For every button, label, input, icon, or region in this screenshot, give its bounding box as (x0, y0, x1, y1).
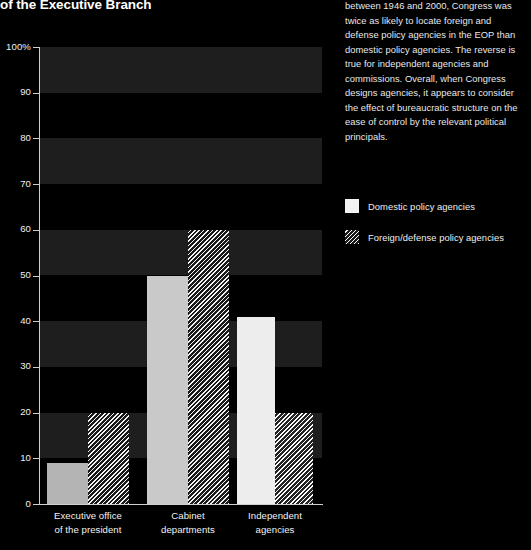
y-axis-tick-mark (33, 458, 39, 459)
bar-domestic-2 (147, 276, 188, 505)
y-axis-tick-mark (33, 138, 39, 139)
y-axis-tick-label: 10 (0, 452, 31, 463)
y-axis-tick-label: 30 (0, 360, 31, 371)
x-axis-label-line: Independent (215, 509, 335, 523)
chart-legend: Domestic policy agencies Foreign/defense… (345, 199, 531, 261)
y-axis-tick-label: 70 (0, 178, 31, 189)
y-axis-tick-label: 100% (0, 41, 31, 52)
legend-swatch-solid-icon (345, 199, 359, 213)
grid-band (40, 230, 322, 276)
y-axis-labels: 0102030405060708090100% (0, 0, 31, 550)
y-axis-tick-mark (33, 47, 39, 48)
y-axis-tick-label: 90 (0, 86, 31, 97)
bar-domestic-3 (237, 317, 275, 504)
y-axis-tick-label: 20 (0, 406, 31, 417)
y-axis-tick-label: 50 (0, 269, 31, 280)
bar-domestic-1 (47, 463, 88, 504)
legend-label-foreign-defense: Foreign/defense policy agencies (368, 232, 504, 243)
bar-chart: 0102030405060708090100% Executive office… (0, 0, 345, 550)
y-axis-tick-mark (33, 184, 39, 185)
x-axis-label-line: agencies (215, 523, 335, 537)
y-axis-tick-mark (33, 504, 39, 505)
legend-item-domestic: Domestic policy agencies (345, 199, 531, 213)
bar-foreign-defense-2 (188, 230, 229, 504)
y-axis-tick-label: 40 (0, 315, 31, 326)
x-axis-line (39, 504, 323, 505)
y-axis-tick-mark (33, 276, 39, 277)
y-axis-tick-label: 80 (0, 132, 31, 143)
y-axis-tick-label: 60 (0, 223, 31, 234)
y-axis-tick-label: 0 (0, 498, 31, 509)
side-column: between 1946 and 2000, Congress was twic… (345, 0, 531, 550)
y-axis-tick-mark (33, 321, 39, 322)
grid-band (40, 138, 322, 184)
y-axis-line (39, 47, 40, 505)
legend-label-domestic: Domestic policy agencies (368, 201, 475, 212)
legend-swatch-hatch-icon (345, 230, 359, 244)
x-axis-category-label: Independentagencies (215, 509, 335, 536)
bar-foreign-defense-1 (88, 413, 129, 504)
body-paragraph: between 1946 and 2000, Congress was twic… (345, 0, 527, 144)
y-axis-tick-mark (33, 93, 39, 94)
y-axis-tick-mark (33, 230, 39, 231)
y-axis-tick-mark (33, 413, 39, 414)
y-axis-tick-mark (33, 367, 39, 368)
grid-band (40, 47, 322, 93)
legend-item-foreign-defense: Foreign/defense policy agencies (345, 230, 531, 244)
bar-foreign-defense-3 (275, 413, 313, 504)
chart-page: of the Executive Branch 0102030405060708… (0, 0, 531, 550)
